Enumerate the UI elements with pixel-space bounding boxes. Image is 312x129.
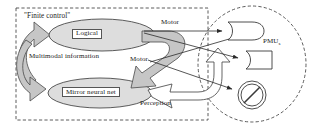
pmus-label: PMUs <box>263 37 281 46</box>
pmu-unit-middle <box>246 51 272 69</box>
pmu-unit-bottom <box>238 81 266 109</box>
pmu-unit-top <box>228 22 264 40</box>
perception-label: Perception <box>140 99 171 107</box>
finite-control-label: "Finite control" <box>24 12 70 20</box>
mirror-neural-net-label: Mirror neural net <box>62 87 120 97</box>
motor-label-middle: Motor <box>130 55 148 63</box>
motor-line-middle <box>144 33 238 58</box>
figure-canvas: "Finite control" Logical Multimodal info… <box>0 0 312 129</box>
multimodal-information-label: Multimodal information <box>29 52 99 60</box>
logical-node-label: Logical <box>72 29 102 39</box>
pmus-label-base: PMU <box>263 37 278 45</box>
multimodal-cycle-ring <box>17 22 50 101</box>
pmus-label-subscript: s <box>278 41 280 46</box>
motor-label-top: Motor <box>161 18 179 26</box>
